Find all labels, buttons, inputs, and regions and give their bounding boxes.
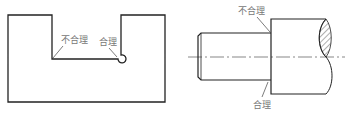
slot-part-figure: 不合理 合理 [8, 15, 165, 102]
label-reasonable-left: 合理 [99, 36, 117, 47]
leader-reasonable-right [262, 82, 268, 97]
small-shaft-outline [198, 33, 271, 80]
label-unreasonable-left: 不合理 [61, 34, 88, 45]
large-body-outline [271, 19, 326, 94]
section-hatch [319, 19, 331, 57]
shaft-part-figure: 不合理 合理 [188, 5, 345, 110]
leader-unreasonable-right [257, 17, 270, 32]
label-reasonable-right: 合理 [253, 99, 271, 110]
leader-unreasonable-left [53, 46, 63, 58]
slot-part-outline [8, 15, 165, 102]
leader-reasonable-left [109, 48, 117, 57]
diagram-canvas: 不合理 合理 不合理 合理 [0, 0, 350, 116]
label-unreasonable-right: 不合理 [238, 5, 265, 16]
